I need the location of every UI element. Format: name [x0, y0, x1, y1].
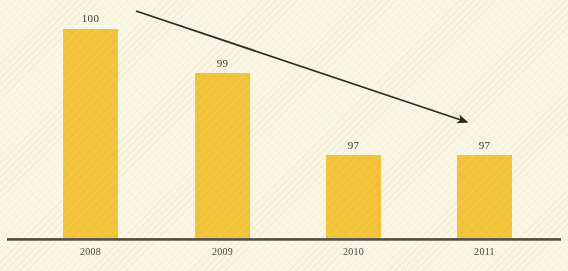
- bar-chart: 100 2008 99 2009 97 2010 97 2011: [0, 0, 568, 271]
- x-tick-label-2008: 2008: [63, 246, 118, 257]
- plot-area: 100 2008 99 2009 97 2010 97 2011: [0, 0, 568, 271]
- x-axis-line: [7, 238, 561, 241]
- bar-2010[interactable]: [326, 155, 381, 239]
- bar-2008[interactable]: [63, 29, 118, 239]
- bar-value-2011: 97: [457, 139, 512, 151]
- bar-value-2010: 97: [326, 139, 381, 151]
- bar-value-2008: 100: [63, 12, 118, 24]
- x-tick-label-2009: 2009: [195, 246, 250, 257]
- bar-2011[interactable]: [457, 155, 512, 239]
- bar-2009[interactable]: [195, 73, 250, 239]
- x-tick-label-2011: 2011: [457, 246, 512, 257]
- trend-arrow-line: [136, 11, 467, 122]
- x-tick-label-2010: 2010: [326, 246, 381, 257]
- bar-value-2009: 99: [195, 57, 250, 69]
